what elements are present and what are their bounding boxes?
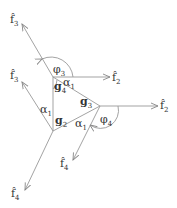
label-f3-mid: f̂3 <box>10 70 19 84</box>
label-f4-mid: f̂4 <box>60 158 69 172</box>
label-alpha-right: α1 <box>75 118 87 132</box>
label-g3: g3 <box>80 96 92 110</box>
label-f2-right: f̂2 <box>160 100 169 114</box>
label-f3-top: f̂3 <box>10 14 19 28</box>
label-alpha-left: α1 <box>40 104 52 118</box>
label-alpha-top: α1 <box>63 77 75 91</box>
label-g2: g2 <box>55 115 67 129</box>
diagram-canvas: f̂3 f̂2 f̂3 f̂2 f̂4 f̂4 g4 g3 g2 φ3 φ4 α… <box>0 0 177 208</box>
label-phi4: φ4 <box>100 114 112 128</box>
vector-f3-top <box>22 24 53 77</box>
vector-f4-mid <box>73 106 100 160</box>
label-f2-top: f̂2 <box>112 72 121 86</box>
label-f4-bot: f̂4 <box>11 188 20 202</box>
vector-f4-bot <box>25 131 53 190</box>
